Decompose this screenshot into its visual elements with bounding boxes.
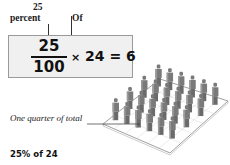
- caption: 25% of 24: [10, 149, 58, 159]
- person-figure-icon: [113, 98, 119, 120]
- person-figure-icon: [212, 83, 218, 105]
- annotation-label: One quarter of total: [10, 113, 82, 123]
- people-illustration: [0, 0, 230, 165]
